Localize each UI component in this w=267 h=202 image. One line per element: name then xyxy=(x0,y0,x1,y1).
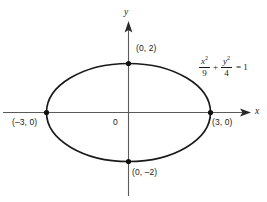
plus-operator: + xyxy=(213,63,218,72)
y-term-numerator: y2 xyxy=(221,57,232,68)
x-axis-label: x xyxy=(255,107,259,117)
y-axis-label: y xyxy=(124,8,128,18)
equation-right-hand-side: 1 xyxy=(243,63,248,72)
point-label-right-vertex: (3, 0) xyxy=(212,118,232,127)
x-exponent: 2 xyxy=(205,55,208,61)
y-term-denominator: 4 xyxy=(224,68,229,78)
point-marker-top-vertex xyxy=(126,61,131,66)
x-term-denominator: 9 xyxy=(202,68,207,78)
point-label-top-vertex: (0, 2) xyxy=(136,44,156,53)
origin-label: 0 xyxy=(113,118,118,127)
point-label-left-vertex: (–3, 0) xyxy=(12,118,37,127)
ellipse-figure: x y 0 (0, 2) (–3, 0) (3, 0) (0, –2) x2 9… xyxy=(0,0,267,202)
point-marker-bottom-vertex xyxy=(126,159,131,164)
point-label-bottom-vertex: (0, –2) xyxy=(132,168,157,177)
equals-operator: = xyxy=(236,63,241,72)
ellipse-equation: x2 9 + y2 4 = 1 xyxy=(198,57,248,78)
y-exponent: 2 xyxy=(227,55,230,61)
point-marker-right-vertex xyxy=(208,110,213,115)
x-term-fraction: x2 9 xyxy=(199,57,210,78)
x-term-numerator: x2 xyxy=(199,57,210,68)
point-marker-left-vertex xyxy=(44,110,49,115)
y-term-fraction: y2 4 xyxy=(221,57,232,78)
